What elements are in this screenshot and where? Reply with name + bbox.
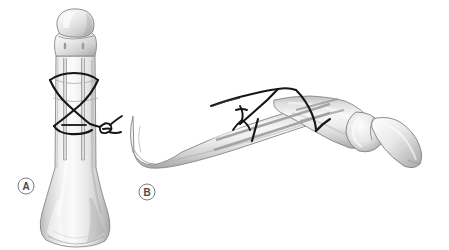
panel-b-illustration: B	[131, 88, 422, 200]
panel-b-wire-head-detail	[213, 98, 240, 106]
panel-b-label-text: B	[143, 187, 150, 198]
panel-a-knot-tail-upper	[110, 116, 122, 125]
panel-a-wire-knot	[100, 116, 122, 133]
illustration-figure: A	[0, 0, 449, 250]
panel-a-knot-twist	[103, 129, 111, 130]
panel-b-label: B	[139, 184, 155, 200]
panel-a-label: A	[18, 178, 34, 194]
panel-a-label-text: A	[22, 181, 29, 192]
panel-b-knot-twist	[236, 109, 247, 110]
panel-a-knot-tail-lower	[109, 132, 121, 133]
panel-a-illustration: A	[18, 9, 122, 247]
panel-b-wire-apex	[278, 88, 296, 90]
illustration-canvas: A	[0, 0, 449, 250]
